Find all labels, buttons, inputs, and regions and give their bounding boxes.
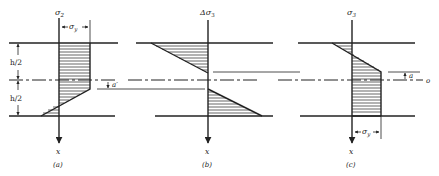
panel-b: Δσ3 x (b) (128, 8, 300, 169)
panel-a: σ2 σy h/2 h/2 a′ x (a) (9, 8, 205, 169)
caption-b: (b) (202, 161, 212, 169)
x-label-a: x (56, 147, 61, 156)
dim-sigma-y-a: σy (69, 22, 78, 33)
stress-triangle-lower-b (208, 89, 262, 116)
centerline-label-o: o (426, 77, 430, 85)
panel-c: σ3 a o σy x (c) (278, 8, 430, 169)
caption-a: (a) (53, 161, 63, 169)
offset-label-a-prime: a′ (112, 81, 118, 89)
axis-label-c: σ3 (347, 8, 356, 18)
offset-label-a: a (409, 72, 413, 80)
x-label-c: x (349, 147, 354, 156)
axis-label-b: Δσ3 (199, 8, 215, 18)
stress-triangle-upper-b (151, 43, 208, 73)
x-label-b: x (205, 147, 210, 156)
dim-h-half-upper: h/2 (10, 58, 22, 67)
stress-distribution-figure: σ2 σy h/2 h/2 a′ x (a) (0, 0, 439, 176)
dim-sigma-y-c: σy (362, 127, 371, 138)
caption-c: (c) (346, 161, 356, 169)
axis-label-a: σ2 (55, 8, 64, 18)
dim-h-half-lower: h/2 (10, 94, 22, 103)
